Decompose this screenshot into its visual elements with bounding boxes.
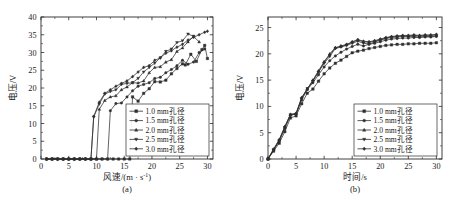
x-tick-label: 5 [294,162,298,171]
y-tick-label: 10 [28,120,36,129]
series-marker [142,83,145,86]
panel-a-plot: 0510152025300510152025303540风速/(m · s-1)… [0,0,230,213]
series-marker [306,92,309,95]
series-marker [334,62,337,64]
series-marker [373,46,376,49]
y-tick-label: 20 [28,84,36,93]
panel-b: 0510152025300510152025时间/s电压/V(b)1.0 mm孔… [230,0,460,213]
y-tick-label: 35 [28,31,36,40]
y-tick-label: 5 [32,137,36,146]
series-marker [159,76,162,79]
series-marker [109,109,112,112]
series-marker [135,119,138,122]
legend-item-label: 2.5 mm孔径 [374,134,413,144]
y-tick-label: 0 [32,155,36,164]
series-marker [435,42,438,45]
legend-item-label: 1.0 mm孔径 [374,106,413,116]
y-tick-label: 10 [255,102,263,111]
series-marker [170,73,173,76]
legend: 1.0 mm孔径1.5 mm孔径2.0 mm孔径2.5 mm孔径3.0 mm孔径 [354,104,437,156]
x-tick-label: 5 [67,162,71,171]
series-marker [379,45,382,48]
series-marker [203,48,206,51]
series-marker [345,55,348,58]
x-tick-label: 10 [320,162,328,171]
series-marker [390,44,393,47]
series-marker [312,88,315,91]
series-marker [181,59,184,62]
series-marker [203,44,206,47]
series-marker [198,33,201,36]
x-axis-title: 时间/s [343,171,367,182]
series-marker [115,102,118,105]
series-marker [165,71,168,74]
series-marker [129,158,132,161]
y-tick-label: 25 [28,66,36,75]
y-tick-label: 0 [259,155,263,164]
series-marker [135,110,138,113]
series-marker [424,42,427,45]
series-marker [363,110,366,113]
series-marker [413,43,416,46]
legend-item-label: 1.5 mm孔径 [374,115,413,125]
series-marker [181,63,184,66]
legend-item-label: 2.5 mm孔径 [146,134,185,144]
figure-container: 0510152025300510152025303540风速/(m · s-1)… [0,0,460,213]
series-marker [323,73,326,76]
panel-caption: (a) [122,184,132,194]
series-marker [176,64,179,67]
series-marker [328,59,331,62]
panel-a: 0510152025300510152025303540风速/(m · s-1)… [0,0,230,213]
series-marker [190,53,193,56]
x-tick-label: 25 [176,162,184,171]
y-axis-title: 电压/V [7,74,18,101]
legend-item-label: 2.0 mm孔径 [374,125,413,135]
y-tick-label: 20 [255,50,263,59]
x-tick-label: 30 [432,162,440,171]
series-marker [153,80,156,83]
series-marker [407,43,410,46]
series-marker [340,51,343,54]
series-marker [153,77,156,80]
series-marker [362,49,365,52]
series-marker [137,85,140,88]
legend-item-label: 1.5 mm孔径 [146,115,185,125]
series-marker [148,81,151,84]
legend-item-label: 3.0 mm孔径 [374,144,413,154]
x-tick-label: 25 [404,162,412,171]
series-marker [345,48,348,51]
series-marker [401,43,404,46]
y-tick-label: 40 [28,13,36,22]
y-tick-label: 5 [259,129,263,138]
x-tick-label: 0 [266,162,270,171]
series-marker [106,158,109,161]
panel-b-plot: 0510152025300510152025时间/s电压/V(b)1.0 mm孔… [230,0,460,213]
series-marker [351,52,354,55]
series-marker [340,59,343,62]
y-axis-title: 电压/V [234,74,245,101]
series-marker [101,158,104,161]
series-marker [170,68,173,71]
y-tick-label: 15 [255,76,263,85]
series-marker [115,85,118,88]
series-marker [363,119,366,122]
series-marker [159,81,162,84]
series-marker [385,44,388,47]
x-tick-label: 0 [39,162,43,171]
x-tick-label: 30 [203,162,211,171]
series-marker [430,42,433,45]
x-tick-label: 20 [376,162,384,171]
legend-item-label: 2.0 mm孔径 [146,125,185,135]
series-marker [165,79,168,82]
x-tick-label: 15 [348,162,356,171]
series-marker [323,66,326,69]
panel-caption: (b) [350,184,360,194]
legend: 1.0 mm孔径1.5 mm孔径2.0 mm孔径2.5 mm孔径3.0 mm孔径 [126,104,209,156]
legend-item-label: 3.0 mm孔径 [146,144,185,154]
x-axis-title: 风速/(m · s-1) [103,172,151,182]
series-marker [131,96,134,99]
series-marker [123,158,126,161]
series-marker [195,60,198,63]
series-marker [120,102,123,105]
series-marker [192,61,195,64]
